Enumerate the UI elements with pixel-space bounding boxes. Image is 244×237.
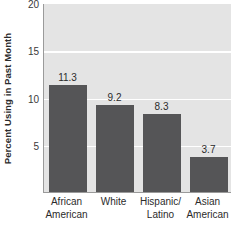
x-axis-category-label-line1: White (101, 196, 127, 207)
y-axis-tick-label: 5 (33, 140, 39, 151)
x-axis-category-label: Hispanic/Latino (140, 196, 181, 221)
x-axis-category-label: White (101, 196, 127, 209)
x-axis-category-label-line1: Asian (195, 196, 220, 207)
bar-chart: Percent Using in Past Month 5101520 11.3… (0, 0, 244, 237)
y-axis-tick-labels: 5101520 (16, 0, 42, 196)
y-axis-title-text: Percent Using in Past Month (3, 32, 14, 164)
x-axis-category-label: AfricanAmerican (45, 196, 87, 221)
x-axis-category-label-line2: American (45, 209, 87, 222)
bar-value-label: 8.3 (155, 101, 169, 112)
x-axis-category-label-line2: Latino (140, 209, 181, 222)
bars-layer: 11.39.28.33.7 (44, 4, 231, 192)
x-axis-category-label-line1: Hispanic/ (140, 196, 181, 207)
x-axis-category-label: AsianAmerican (186, 196, 228, 221)
y-axis-tick-label: 15 (28, 46, 39, 57)
bar-value-label: 9.2 (108, 92, 122, 103)
bar (96, 105, 134, 192)
bar-value-label: 3.7 (202, 144, 216, 155)
x-axis-category-label-line2: American (186, 209, 228, 222)
y-axis-tick-label: 10 (28, 93, 39, 104)
bar (143, 114, 181, 192)
plot-area: 11.39.28.33.7 (43, 4, 231, 193)
y-axis-tick-label: 20 (28, 0, 39, 10)
y-axis-title: Percent Using in Past Month (0, 0, 16, 196)
bar (190, 157, 228, 192)
bar-value-label: 11.3 (58, 72, 77, 83)
bar (49, 85, 87, 192)
x-axis-category-label-line1: African (51, 196, 82, 207)
x-axis-category-labels: AfricanAmericanWhiteHispanic/LatinoAsian… (43, 196, 231, 236)
